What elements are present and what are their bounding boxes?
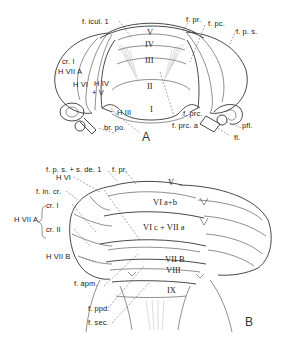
label-f-sec: f. sec. — [88, 319, 109, 327]
label-br-po: br. po. — [104, 124, 126, 132]
label-h-viia-b: H VII A — [14, 216, 38, 224]
label-f-apm: f. apm. — [74, 280, 98, 288]
label-pfl: pfl. — [242, 122, 252, 130]
cerebellum-figure: f. icul. 1 f. pr. f. pc. f. p. s. cr. I … — [0, 0, 289, 342]
label-cr-II: cr. II — [46, 226, 61, 234]
lobule-iii-a: III — [145, 56, 154, 65]
label-f-pc: f. pc. — [208, 20, 225, 28]
label-fl: fl. — [234, 134, 240, 142]
label-h-vi-a: H VI — [73, 81, 88, 89]
label-h-iii: H III — [117, 109, 131, 117]
figure-line-art — [0, 0, 289, 342]
label-f-ps-sde1: f. p. s. + s. de. 1 — [46, 166, 101, 174]
lobule-v-b: V — [168, 178, 174, 187]
panel-label-a: A — [142, 130, 150, 144]
label-f-prc-a: f. prc. a — [172, 122, 198, 130]
label-h-viib: H VII B — [46, 253, 70, 261]
label-h-vi-b: H VI — [56, 174, 71, 182]
lobule-via-b: VI a+b — [153, 198, 177, 207]
label-cr-I-a: cr. I — [62, 58, 75, 66]
lobule-vic-viia: VI c + VII a — [143, 223, 184, 232]
lobule-viib: VII B — [165, 255, 185, 264]
panel-label-b: B — [245, 315, 253, 329]
lobule-ix: IX — [167, 286, 176, 295]
label-f-icul-1: f. icul. 1 — [82, 18, 109, 26]
label-h-iv: H IV — [94, 80, 109, 88]
lobule-i-a: I — [150, 105, 153, 114]
label-h-viia-a: H VII A — [58, 68, 82, 76]
lobule-iv-a: IV — [145, 40, 154, 49]
label-f-prc: f. prc. — [183, 110, 202, 118]
lobule-ii-a: II — [147, 82, 153, 91]
lobule-v-a: V — [147, 28, 153, 37]
label-plus-v: + V — [92, 89, 104, 97]
label-f-pr-b: f. pr. — [112, 166, 127, 174]
label-cr-I-b: cr. I — [46, 202, 59, 210]
label-f-ppd: f. ppd. — [88, 305, 110, 313]
lobule-viii: VIII — [166, 266, 181, 275]
label-f-ps: f. p. s. — [236, 28, 257, 36]
label-f-pr-a: f. pr. — [186, 16, 201, 24]
label-f-in-cr: f. in. cr. — [36, 188, 61, 196]
panel-b-drawing — [38, 171, 271, 332]
